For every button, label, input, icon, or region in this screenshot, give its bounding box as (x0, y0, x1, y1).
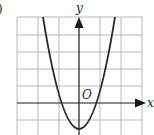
origin-label: O (82, 88, 92, 102)
part-marker: ) (0, 2, 3, 16)
y-axis-label: y (75, 1, 83, 15)
x-axis-label: x (147, 96, 154, 110)
x-axis-arrow-icon (135, 99, 146, 108)
y-axis-arrow-icon (75, 17, 84, 28)
axes (17, 24, 138, 135)
parabola-graph: ) y x O (0, 0, 154, 135)
